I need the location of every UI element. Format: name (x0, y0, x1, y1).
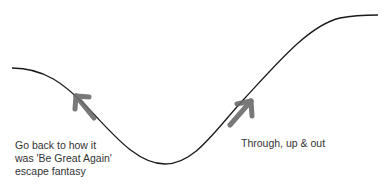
label-left-line-3: escape fantasy (15, 165, 135, 178)
label-escape-fantasy: Go back to how it was 'Be Great Again' e… (15, 139, 135, 178)
label-left-line-1: Go back to how it (15, 139, 135, 152)
label-through-up-out: Through, up & out (241, 137, 325, 150)
arrow-back-up-left-icon (75, 96, 94, 118)
arrow-through-up-right-icon (230, 101, 252, 125)
label-left-line-2: was 'Be Great Again' (15, 152, 135, 165)
